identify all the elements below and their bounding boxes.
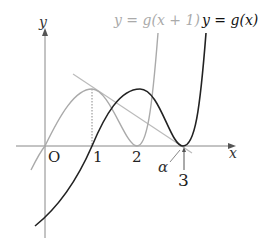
- x-axis-label: x: [229, 145, 237, 161]
- tangent-line: [73, 74, 192, 153]
- alpha-label: α: [158, 158, 168, 176]
- y-axis-label: y: [39, 14, 47, 30]
- origin-label: O: [48, 148, 60, 166]
- curve-label-g-x: y = g(x): [202, 12, 258, 28]
- curve-label-g-x-plus-1: y = g(x + 1): [114, 12, 200, 28]
- tick-label-1: 1: [93, 148, 103, 166]
- three-arrow-icon: [182, 147, 186, 152]
- curve-g-x: [35, 33, 206, 226]
- alpha-leader: [170, 150, 180, 162]
- tick-label-3: 3: [178, 170, 189, 190]
- tick-label-2: 2: [132, 148, 142, 166]
- diagram-canvas: [0, 0, 267, 249]
